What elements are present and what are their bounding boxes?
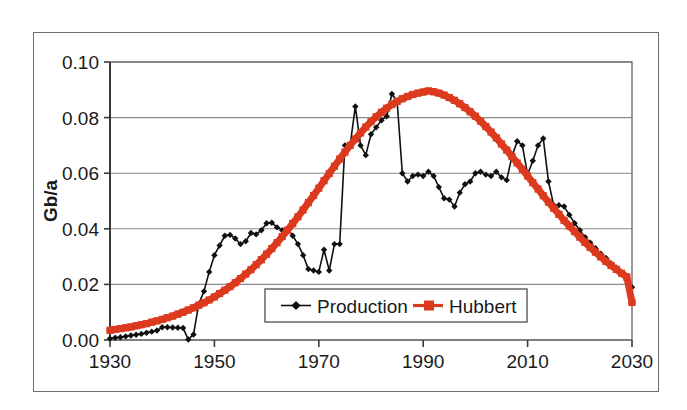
production-marker [436,184,442,190]
production-marker [321,246,327,252]
hubbert-marker [320,177,327,184]
hubbert-marker [326,170,333,177]
production-marker [175,325,181,331]
y-axis-tick-labels: 0.000.020.040.060.080.10 [62,52,99,351]
hubbert-marker [273,239,280,246]
y-axis-title-text: Gb/a [40,179,61,222]
y-tick-label: 0.04 [62,219,99,240]
hubbert-marker [341,148,348,155]
production-marker [149,328,155,334]
production-marker [326,267,332,273]
hubbert-marker [300,206,307,213]
hubbert-marker [508,153,515,160]
legend-label-production: Production [317,296,408,317]
production-marker [128,332,134,338]
hubbert-marker [305,199,312,206]
y-tick-label: 0.06 [62,163,99,184]
hubbert-marker [534,185,541,192]
production-marker [201,288,207,294]
production-marker [363,152,369,158]
production-marker [107,335,113,341]
hubbert-marker [519,166,526,173]
x-tick-label: 2030 [611,351,653,372]
hubbert-marker [514,159,521,166]
production-marker [206,269,212,275]
chart-figure: 193019501970199020102030 0.000.020.040.0… [0,0,687,410]
production-marker [180,325,186,331]
production-marker [164,324,170,330]
hubbert-marker [347,142,354,149]
production-marker [504,177,510,183]
x-tick-label: 2010 [506,351,548,372]
y-tick-label: 0.10 [62,52,99,73]
production-marker [545,178,551,184]
production-marker [222,233,228,239]
y-tick-label: 0.00 [62,330,99,351]
legend-label-hubbert: Hubbert [449,296,517,317]
x-tick-label: 1950 [193,351,235,372]
hubbert-marker [529,179,536,186]
legend-marker-hubbert [424,301,434,311]
y-tick-label: 0.08 [62,108,99,129]
production-marker [310,267,316,273]
production-marker [133,332,139,338]
production-marker [530,157,536,163]
production-marker [483,171,489,177]
hubbert-marker [289,220,296,227]
production-marker [138,331,144,337]
production-marker [415,171,421,177]
production-marker [216,242,222,248]
production-marker [169,324,175,330]
hubbert-marker [284,227,291,234]
production-marker [477,169,483,175]
hubbert-marker [628,299,635,306]
production-marker [316,269,322,275]
hubbert-marker [540,192,547,199]
x-tick-label: 1930 [89,351,131,372]
hubbert-marker [331,163,338,170]
hubbert-marker [294,213,301,220]
hubbert-marker [623,273,630,280]
hubbert-marker [545,199,552,206]
production-marker [211,252,217,258]
production-marker [336,241,342,247]
chart-canvas: 193019501970199020102030 0.000.020.040.0… [0,0,687,410]
hubbert-marker [493,134,500,141]
production-marker [305,266,311,272]
hubbert-marker [315,185,322,192]
hubbert-marker [503,147,510,154]
production-marker [441,195,447,201]
production-marker [143,330,149,336]
production-marker [300,252,306,258]
hubbert-marker [524,172,531,179]
production-marker [122,333,128,339]
production-marker [357,142,363,148]
hubbert-marker [352,135,359,142]
hubbert-marker [279,233,286,240]
chart-legend: ProductionHubbert [265,289,527,322]
y-axis-title: Gb/a [40,179,61,222]
x-tick-label: 1970 [298,351,340,372]
x-tick-label: 1990 [402,351,444,372]
y-tick-label: 0.02 [62,274,99,295]
hubbert-marker [336,155,343,162]
production-marker [352,103,358,109]
x-axis-tick-labels: 193019501970199020102030 [89,351,653,372]
hubbert-marker [310,192,317,199]
